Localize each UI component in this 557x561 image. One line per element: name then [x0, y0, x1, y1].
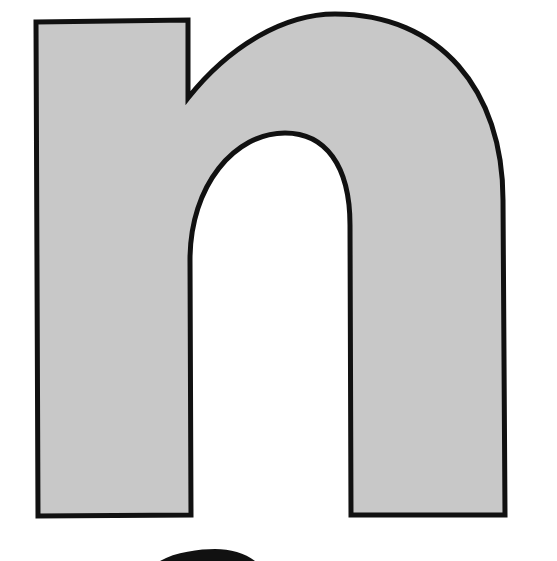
letter-n-figure — [0, 0, 557, 561]
letter-n-glyph — [36, 14, 505, 516]
partial-shape-bottom — [160, 549, 255, 561]
